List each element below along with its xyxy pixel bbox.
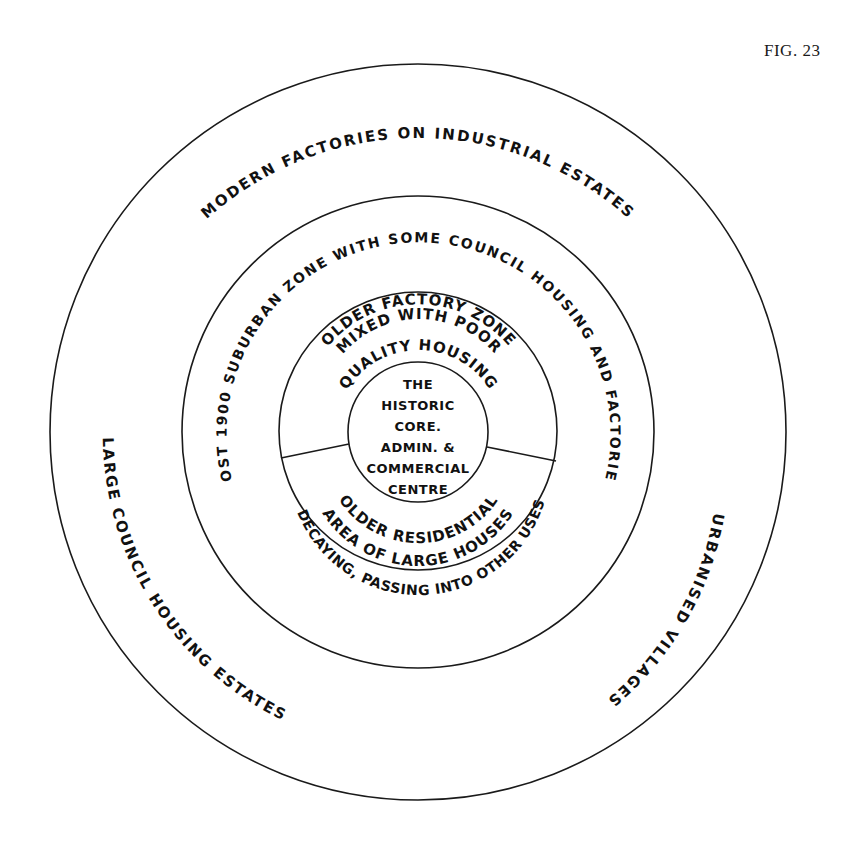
core-label-line: CENTRE: [388, 482, 448, 497]
core-label-line: THE: [403, 377, 433, 392]
figure-label: FIG. 23: [764, 41, 820, 60]
outer-zone-top-label: MODERN FACTORIES ON INDUSTRIAL ESTATES: [197, 124, 638, 222]
outer-zone-left-label: LARGE COUNCIL HOUSING ESTATES: [99, 437, 291, 724]
inner-divider-right: [487, 447, 556, 461]
core-label-line: ADMIN. &: [381, 440, 455, 455]
inner-divider-left: [281, 444, 349, 458]
core-label-line: COMMERCIAL: [366, 461, 469, 476]
middle-zone-label: POST 1900 SUBURBAN ZONE WITH SOME COUNCI…: [0, 0, 624, 484]
core-label-line: HISTORIC: [381, 398, 454, 413]
concentric-zone-diagram: FIG. 23 MODERN FACTORIES ON INDUSTRIAL E…: [0, 0, 852, 854]
outer-zone-right-label: URBANISED VILLAGES: [603, 512, 727, 711]
core-label-line: CORE.: [395, 419, 442, 434]
core-label: THE HISTORIC CORE. ADMIN. & COMMERCIAL C…: [366, 377, 469, 497]
